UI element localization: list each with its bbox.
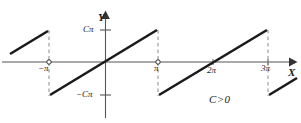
y-tick-label-neg-c-pi: −Cπ	[76, 90, 93, 99]
condition-annotation: C>0	[209, 94, 230, 105]
plot-area	[0, 0, 301, 123]
y-tick-label-c-pi: Cπ	[83, 25, 94, 34]
sawtooth-wave-figure: Y X Cπ −Cπ −π π 2π 3π C>0	[0, 0, 301, 123]
y-axis-label: Y	[98, 12, 105, 23]
x-tick-label-pi: π	[154, 64, 159, 73]
x-tick-label-2-pi: 2π	[207, 66, 216, 75]
x-axis-label: X	[288, 67, 295, 78]
x-tick-label-3-pi: 3π	[261, 64, 270, 73]
curve-segment-0	[10, 31, 48, 54]
x-tick-label-neg-pi: −π	[38, 64, 49, 73]
curve-segment-3	[269, 78, 297, 95]
